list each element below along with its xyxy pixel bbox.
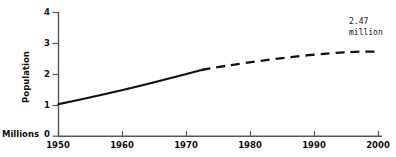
chart-plot-area	[0, 0, 396, 157]
x-tick-label-2000: 2000	[360, 140, 396, 150]
x-tick-label-1990: 1990	[296, 140, 332, 150]
x-tick-label-1980: 1980	[232, 140, 268, 150]
y-tick-label-1: 1	[36, 100, 50, 110]
endpoint-annotation: 2.47 million	[349, 17, 383, 38]
y-tick-label-3: 3	[36, 38, 50, 48]
x-tick-label-1960: 1960	[104, 140, 140, 150]
x-tick-label-1970: 1970	[168, 140, 204, 150]
x-tick-label-1950: 1950	[40, 140, 76, 150]
units-label: Millions	[2, 129, 39, 139]
endpoint-annotation-unit: million	[349, 28, 383, 39]
y-tick-label-4: 4	[36, 7, 50, 17]
y-tick-label-2: 2	[36, 69, 50, 79]
population-line-historical	[59, 70, 202, 104]
population-chart: 4 3 2 1 0 1950 1960 1970 1980 1990 2000 …	[0, 0, 396, 157]
y-axis-title: Population	[21, 37, 31, 117]
population-line-projected	[202, 52, 379, 70]
endpoint-annotation-value: 2.47	[349, 17, 383, 28]
